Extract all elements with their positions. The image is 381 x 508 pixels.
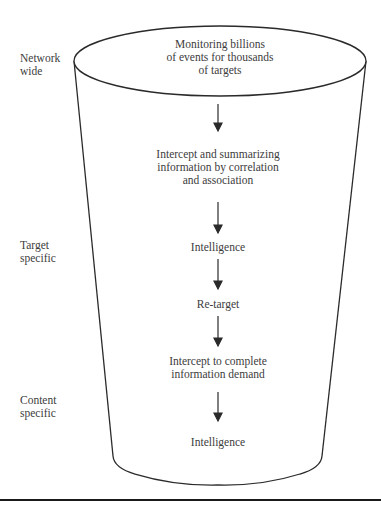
funnel-right-side	[322, 61, 366, 456]
label-line: Target	[20, 239, 56, 252]
text-line: information demand	[169, 368, 267, 381]
label-target-specific: Target specific	[20, 239, 56, 265]
arrow-down-icon	[214, 202, 222, 233]
arrow-down-icon	[214, 104, 222, 131]
text-line: of targets	[167, 64, 274, 77]
label-line: specific	[20, 407, 56, 420]
funnel-top-text: Monitoring billions of events for thousa…	[167, 38, 274, 77]
label-line: specific	[20, 252, 56, 265]
text-line: information by correlation	[156, 161, 279, 174]
step-intercept-summarize: Intercept and summarizing information by…	[156, 148, 279, 187]
step-intercept-complete: Intercept to complete information demand	[169, 355, 267, 381]
text-line: Monitoring billions	[167, 38, 274, 51]
step-intelligence-final: Intelligence	[191, 436, 245, 449]
text-line: and association	[156, 174, 279, 187]
arrow-down-icon	[214, 316, 222, 346]
text-line: Intercept to complete	[169, 355, 267, 368]
arrow-down-icon	[214, 259, 222, 289]
arrow-down-icon	[214, 392, 222, 421]
label-content-specific: Content specific	[20, 394, 56, 420]
label-network-wide: Network wide	[20, 52, 60, 78]
funnel-left-side	[74, 61, 113, 456]
step-retarget: Re-target	[197, 298, 240, 311]
text-line: of events for thousands	[167, 51, 274, 64]
funnel-bottom	[113, 456, 322, 485]
label-line: Network	[20, 52, 60, 65]
step-intelligence: Intelligence	[191, 241, 245, 254]
label-line: wide	[20, 65, 60, 78]
text-line: Intercept and summarizing	[156, 148, 279, 161]
label-line: Content	[20, 394, 56, 407]
